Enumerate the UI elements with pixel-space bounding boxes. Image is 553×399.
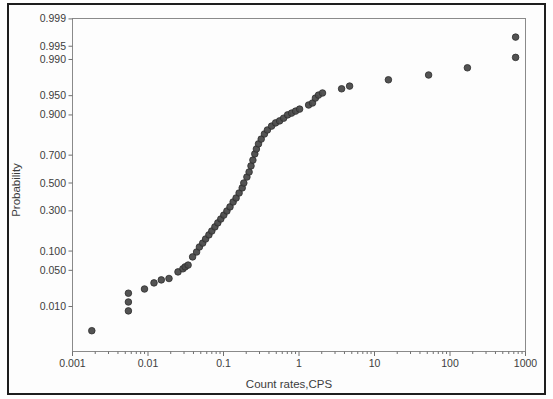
data-point xyxy=(512,34,519,41)
data-point xyxy=(185,262,192,269)
data-point xyxy=(296,106,303,113)
data-point xyxy=(158,277,165,284)
y-tick-label: 0.950 xyxy=(40,89,66,101)
data-point xyxy=(250,157,257,164)
y-tick-label: 0.100 xyxy=(40,245,66,257)
data-point xyxy=(464,65,471,72)
y-tick-label: 0.700 xyxy=(40,149,66,161)
y-tick-label: 0.500 xyxy=(40,177,66,189)
data-point xyxy=(151,280,158,287)
data-point xyxy=(241,180,248,187)
x-tick-label: 1000 xyxy=(514,357,538,369)
data-point xyxy=(346,83,353,90)
x-tick-label: 1 xyxy=(296,357,302,369)
data-point xyxy=(385,77,392,84)
data-point xyxy=(166,275,173,282)
x-tick-label: 100 xyxy=(441,357,459,369)
y-tick-label: 0.900 xyxy=(40,108,66,120)
x-tick-label: 0.01 xyxy=(138,357,159,369)
plot-area xyxy=(73,19,526,352)
data-point xyxy=(125,308,132,315)
y-tick-label: 0.995 xyxy=(40,40,66,52)
data-point xyxy=(425,72,432,79)
y-axis-title: Probability xyxy=(10,163,22,217)
data-point xyxy=(512,54,519,61)
y-tick-label: 0.010 xyxy=(40,300,66,312)
y-tick-label: 0.990 xyxy=(40,53,66,65)
x-tick-label: 0.1 xyxy=(216,357,231,369)
probability-plot: 0.0010.010.111010010000.9990.9950.9900.9… xyxy=(0,0,553,399)
x-tick-label: 0.001 xyxy=(59,357,85,369)
data-point xyxy=(125,290,132,297)
data-point xyxy=(246,169,253,176)
y-tick-label: 0.050 xyxy=(40,264,66,276)
plot-generated-group: 0.0010.010.111010010000.9990.9950.9900.9… xyxy=(40,12,538,369)
data-point xyxy=(89,327,96,334)
data-point xyxy=(319,90,326,97)
data-point xyxy=(141,286,148,293)
x-axis-title: Count rates,CPS xyxy=(246,378,333,390)
y-tick-label: 0.999 xyxy=(40,12,66,24)
figure-canvas: 0.0010.010.111010010000.9990.9950.9900.9… xyxy=(0,0,553,399)
data-point xyxy=(125,299,132,306)
data-point xyxy=(338,86,345,93)
y-tick-label: 0.300 xyxy=(40,204,66,216)
x-tick-label: 10 xyxy=(369,357,381,369)
